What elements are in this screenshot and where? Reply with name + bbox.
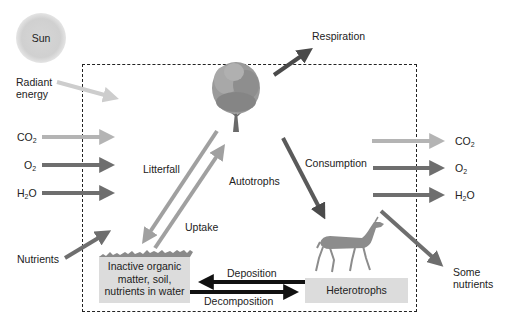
some-nutrients-arrow — [381, 211, 438, 262]
deer-icon — [316, 217, 384, 272]
o2-in-label: O2 — [24, 159, 36, 171]
co2-out-label: CO2 — [455, 135, 475, 147]
nutrients-in-arrow — [65, 234, 105, 258]
litter-layer — [99, 250, 193, 257]
o2-out-label: O2 — [455, 162, 467, 174]
radiant-energy-label: Radiant energy — [16, 76, 52, 100]
autotrophs-label: Autotrophs — [229, 175, 280, 187]
consumption-arrow — [283, 138, 322, 213]
decomposition-label: Decomposition — [204, 295, 273, 307]
some-nutrients-label: Some nutrients — [453, 266, 493, 290]
uptake-label: Uptake — [185, 221, 218, 233]
co2-in-label: CO2 — [17, 131, 37, 143]
h2o-out-label: H2O — [455, 189, 475, 201]
deposition-label: Deposition — [227, 267, 277, 279]
consumption-label: Consumption — [305, 157, 367, 169]
diagram-arrows — [0, 0, 508, 334]
respiration-label: Respiration — [312, 30, 365, 42]
tree-icon — [212, 62, 260, 132]
nutrients-in-label: Nutrients — [17, 253, 59, 265]
litterfall-label: Litterfall — [143, 163, 180, 175]
respiration-arrow — [274, 52, 307, 75]
radiant-energy-arrow — [57, 82, 112, 97]
h2o-in-label: H2O — [17, 187, 37, 199]
